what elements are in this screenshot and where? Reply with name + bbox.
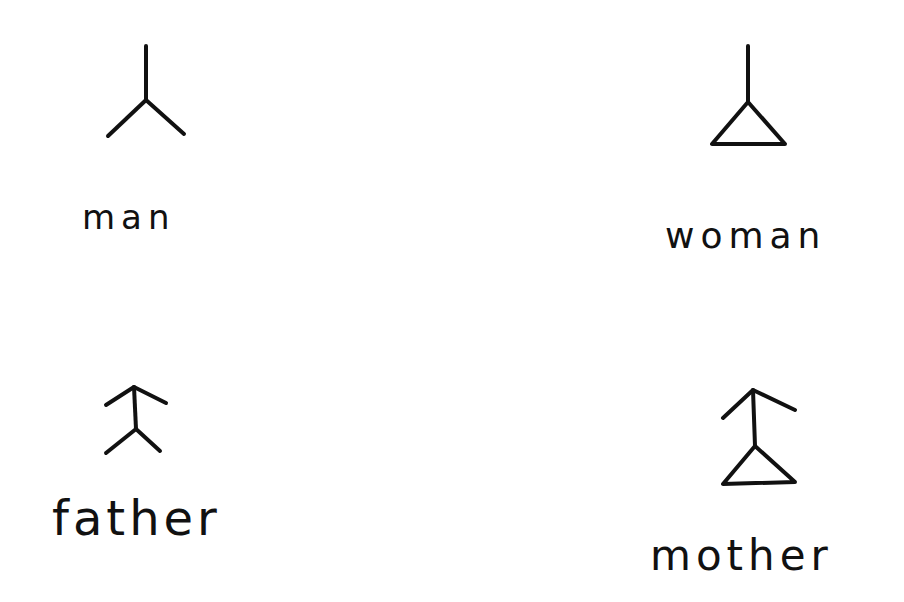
label-woman: woman <box>665 218 826 254</box>
label-man: man <box>82 200 176 234</box>
man-symbol-icon <box>100 40 190 140</box>
label-father: father <box>52 494 221 542</box>
father-symbol-icon <box>100 375 180 465</box>
mother-symbol-icon <box>715 380 805 490</box>
woman-symbol-icon <box>705 40 795 150</box>
label-mother: mother <box>650 535 833 577</box>
